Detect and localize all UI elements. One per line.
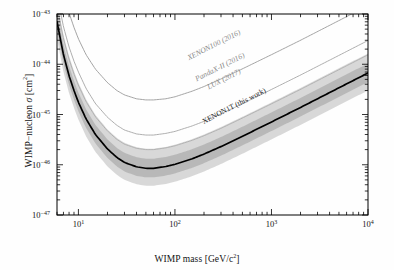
y-tick-label: 10−43 <box>32 9 50 19</box>
y-tick-label: 10−47 <box>32 210 50 220</box>
y-tick-label: 10−44 <box>32 59 50 69</box>
y-tick-label: 10−46 <box>32 159 50 169</box>
y-axis-title: WIMP−nucleon σ [cm2] <box>22 31 33 211</box>
x-tick-label: 103 <box>266 219 278 229</box>
y-axis-title-unit: [cm <box>24 80 34 98</box>
y-axis-title-tail: ] <box>24 74 34 77</box>
x-axis-title-text: WIMP mass [GeV/c <box>154 254 233 264</box>
x-tick-label: 101 <box>73 219 85 229</box>
uncertainty-band <box>57 12 368 177</box>
x-tick-label: 104 <box>362 219 374 229</box>
y-axis-title-symbol: σ <box>24 98 34 103</box>
exclusion-limit-plot: 10110210310410−4310−4410−4510−4610−47 XE… <box>0 0 394 270</box>
figure-container: 10110210310410−4310−4410−4510−4610−47 XE… <box>0 0 394 270</box>
y-tick-label: 10−45 <box>32 109 50 119</box>
y-axis-title-exponent: 2 <box>22 77 28 80</box>
y-axis-title-text: WIMP−nucleon <box>24 102 34 167</box>
x-axis-title: WIMP mass [GeV/c2] <box>0 253 394 264</box>
x-tick-label: 102 <box>169 219 181 229</box>
x-axis-title-tail: ] <box>236 254 239 264</box>
